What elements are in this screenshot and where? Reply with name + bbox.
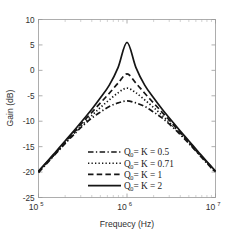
y-tick-label: -20 [23,168,35,177]
svg-text:10: 10 [117,202,127,212]
y-tick-label: 0 [30,66,35,75]
y-axis-title: Gain (dB) [5,89,15,126]
figure-container: 1050-5-10-15-20-25 105106107 Gain (dB) F… [0,0,242,238]
svg-text:7: 7 [217,201,220,207]
x-axis-title: Frequecy (Hz) [100,219,155,229]
y-tick-label: -10 [23,117,35,126]
y-tick-label: 5 [30,41,35,50]
svg-text:10: 10 [206,202,216,212]
legend-label-value: = K = 1 [133,170,162,180]
legend-label-value: = K = 0.5 [133,147,169,157]
y-tick-label: 10 [25,16,35,25]
y-tick-label: -5 [27,92,35,101]
y-tick-label: -15 [23,143,35,152]
legend-label-value: = K = 0.71 [133,159,174,169]
legend-label-value: = K = 2 [133,181,162,191]
gain-frequency-chart: 1050-5-10-15-20-25 105106107 Gain (dB) F… [0,0,242,238]
svg-text:10: 10 [29,202,39,212]
